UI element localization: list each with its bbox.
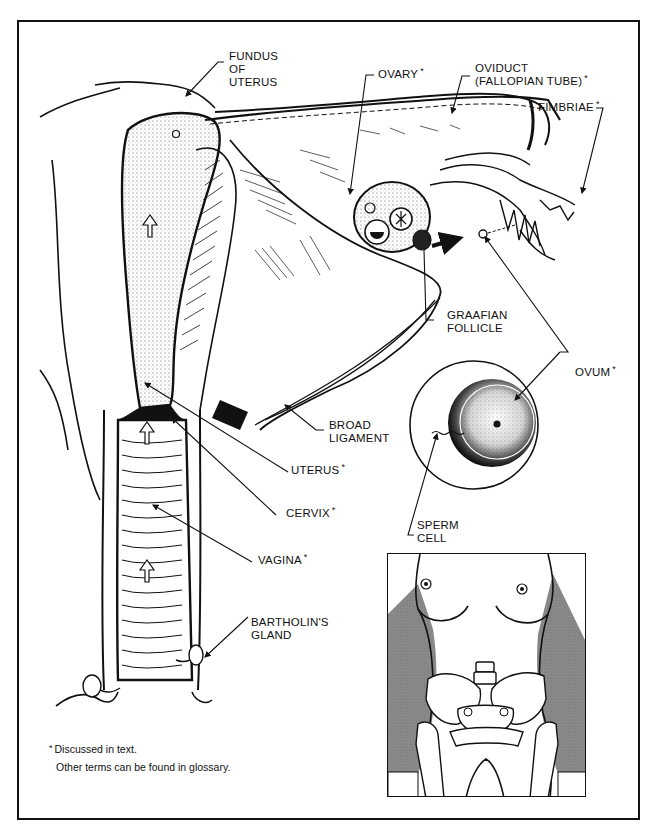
released-ovum xyxy=(479,230,487,238)
fimbriae xyxy=(430,153,575,260)
ovulation-arrow xyxy=(432,238,460,246)
graafian-follicle xyxy=(413,230,431,250)
torso-pelvis-illustration xyxy=(388,554,586,797)
cervix xyxy=(118,405,186,420)
label-fundus-of-uterus: FUNDUS OF UTERUS xyxy=(229,50,278,89)
label-uterus: UTERUS* xyxy=(291,464,345,477)
label-bartholins-gland: BARTHOLIN'S GLAND xyxy=(251,616,329,642)
oviduct-tube xyxy=(215,94,549,150)
label-vagina: VAGINA* xyxy=(258,554,308,567)
inset-torso-diagram xyxy=(387,553,586,797)
ovum-magnified xyxy=(410,361,538,489)
label-graafian-follicle: GRAAFIAN FOLLICLE xyxy=(447,309,507,335)
label-cervix: CERVIX* xyxy=(286,507,336,520)
label-fimbriae: FIMBRIAE* xyxy=(538,101,600,114)
vagina xyxy=(56,410,212,706)
label-broad-ligament: BROAD LIGAMENT xyxy=(329,419,389,445)
label-sperm-cell: SPERM CELL xyxy=(417,519,459,545)
uterus xyxy=(122,113,236,410)
label-oviduct: OVIDUCT (FALLOPIAN TUBE)* xyxy=(475,62,588,88)
pelvis-bones xyxy=(416,662,558,797)
label-ovum: OVUM* xyxy=(575,366,616,379)
label-ovary: OVARY* xyxy=(378,68,424,81)
footnote: *Discussed in text. Other terms can be f… xyxy=(49,741,230,776)
